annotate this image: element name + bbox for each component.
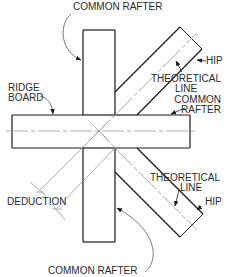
label-theoretical-bottom-2: LINE [155, 183, 227, 193]
label-common-rafter-right-2: RAFTER [160, 105, 221, 115]
common-rafter-top-shape [83, 30, 115, 115]
label-common-rafter-bottom: COMMON RAFTER [48, 266, 137, 276]
hip-rafter-diagram: COMMON RAFTER HIP THEORETICAL LINE COMMO… [0, 0, 227, 277]
common-rafter-bottom-shape [83, 148, 115, 242]
label-common-rafter-top: COMMON RAFTER [73, 2, 162, 12]
diagram-drawing [0, 0, 227, 277]
label-deduction: DEDUCTION [7, 197, 66, 207]
label-hip-top: HIP [206, 56, 223, 66]
ridge-board-shape [12, 115, 190, 148]
leader-arrows [40, 14, 206, 272]
label-ridge-board-2: BOARD [8, 93, 44, 103]
label-theoretical-top-2: LINE [150, 84, 222, 94]
label-hip-bottom: HIP [205, 197, 222, 207]
